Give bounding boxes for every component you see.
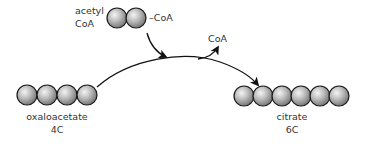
coa-group-label: –CoA bbox=[149, 12, 173, 23]
carbon-ball bbox=[57, 85, 77, 105]
citrate-carbon-count: 6C bbox=[286, 124, 299, 135]
oxaloacetate-molecule bbox=[17, 85, 97, 105]
carbon-ball bbox=[126, 8, 146, 28]
citrate-molecule bbox=[234, 86, 349, 106]
acetyl-coa-molecule bbox=[107, 8, 146, 28]
oxaloacetate-label: oxaloacetate bbox=[26, 111, 88, 122]
acetyl-incoming-arrow bbox=[147, 33, 166, 57]
carbon-ball bbox=[234, 86, 254, 106]
acetyl-coa-label: CoA bbox=[75, 18, 94, 29]
carbon-ball bbox=[291, 86, 311, 106]
carbon-ball bbox=[329, 86, 349, 106]
carbon-ball bbox=[77, 85, 97, 105]
reaction-arrow bbox=[97, 57, 258, 87]
citrate-label: citrate bbox=[277, 111, 308, 122]
carbon-ball bbox=[253, 86, 273, 106]
citrate-synthesis-diagram: acetyl CoA –CoA CoA oxaloacetate 4C citr… bbox=[0, 0, 366, 146]
carbon-ball bbox=[272, 86, 292, 106]
carbon-ball bbox=[310, 86, 330, 106]
carbon-ball bbox=[37, 85, 57, 105]
acetyl-label: acetyl bbox=[75, 5, 104, 16]
oxaloacetate-carbon-count: 4C bbox=[51, 124, 64, 135]
released-coa-label: CoA bbox=[208, 33, 227, 44]
carbon-ball bbox=[17, 85, 37, 105]
carbon-ball bbox=[107, 8, 127, 28]
